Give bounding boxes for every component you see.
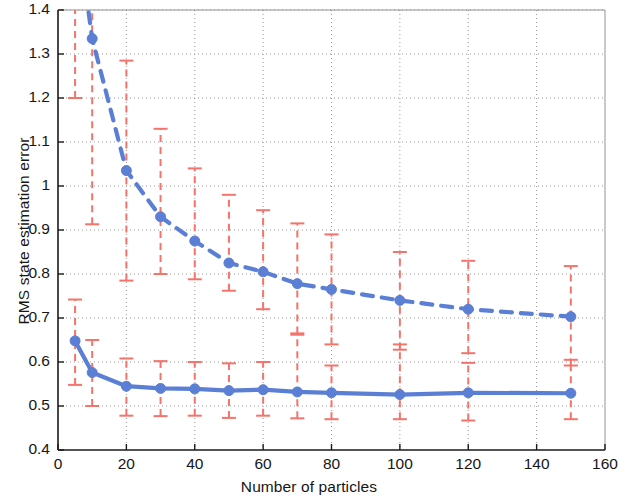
data-point-marker xyxy=(258,385,268,395)
x-axis-tick-label: 20 xyxy=(96,455,156,473)
data-point-marker xyxy=(87,34,97,44)
x-axis-tick-label: 60 xyxy=(233,455,293,473)
y-axis-tick-label: 0.8 xyxy=(0,264,50,282)
data-point-marker xyxy=(156,383,166,393)
y-axis-tick-label: 0.7 xyxy=(0,308,50,326)
data-point-marker xyxy=(224,258,234,268)
y-axis-tick-label: 0.9 xyxy=(0,220,50,238)
data-point-marker xyxy=(190,384,200,394)
series-line xyxy=(75,0,571,317)
x-axis-tick-label: 80 xyxy=(302,455,362,473)
grid-layer xyxy=(58,10,605,450)
y-axis-tick-label: 1.1 xyxy=(0,132,50,150)
data-point-marker xyxy=(121,381,131,391)
data-point-marker xyxy=(566,312,576,322)
y-axis-tick-label: 0.5 xyxy=(0,396,50,414)
data-point-marker xyxy=(156,212,166,222)
x-axis-tick-label: 40 xyxy=(165,455,225,473)
data-point-marker xyxy=(70,336,80,346)
data-point-marker xyxy=(566,388,576,398)
x-axis-tick-label: 160 xyxy=(575,455,618,473)
y-axis-tick-label: 1.2 xyxy=(0,88,50,106)
data-point-marker xyxy=(292,279,302,289)
data-point-marker xyxy=(395,390,405,400)
series-line xyxy=(75,341,571,395)
data-point-marker xyxy=(327,284,337,294)
y-axis-tick-label: 0.6 xyxy=(0,352,50,370)
x-axis-tick-label: 0 xyxy=(28,455,88,473)
plot-canvas xyxy=(0,0,618,501)
data-point-marker xyxy=(463,304,473,314)
data-point-marker xyxy=(190,236,200,246)
data-point-marker xyxy=(463,388,473,398)
data-point-marker xyxy=(395,295,405,305)
series-layer xyxy=(70,0,576,400)
data-point-marker xyxy=(292,387,302,397)
series-lower-solid-series xyxy=(70,336,576,400)
data-point-marker xyxy=(224,386,234,396)
x-axis-label: Number of particles xyxy=(0,478,618,496)
y-axis-tick-label: 1 xyxy=(0,176,50,194)
x-axis-tick-label: 140 xyxy=(507,455,567,473)
chart-figure: RMS state estimation error Number of par… xyxy=(0,0,618,501)
series-upper-dashed-series xyxy=(75,0,576,322)
data-point-marker xyxy=(87,368,97,378)
data-point-marker xyxy=(327,388,337,398)
data-point-marker xyxy=(258,267,268,277)
x-axis-tick-label: 100 xyxy=(370,455,430,473)
errorbar-layer xyxy=(68,10,578,421)
data-point-marker xyxy=(121,166,131,176)
y-axis-tick-label: 1.4 xyxy=(0,0,50,18)
x-axis-tick-label: 120 xyxy=(438,455,498,473)
y-axis-tick-label: 1.3 xyxy=(0,44,50,62)
